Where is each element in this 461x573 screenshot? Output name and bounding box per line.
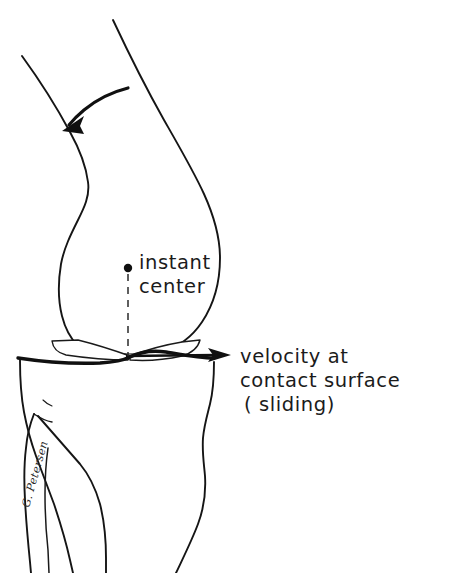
velocity-label-line3: ( sliding): [244, 393, 335, 416]
knee-diagram-figure: instant center velocity at contact surfa…: [0, 0, 461, 573]
knee-diagram-canvas: instant center velocity at contact surfa…: [0, 0, 461, 573]
fibula-shaft-medial: [45, 448, 49, 573]
tibia-lateral-border: [176, 362, 214, 573]
flexion-rotation-arrow-curve: [69, 88, 128, 125]
femur-anterior-shaft-line: [22, 56, 88, 346]
instant-center-label-line1: instant: [139, 251, 211, 274]
instant-center-label-line2: center: [139, 275, 206, 298]
femur-posterior-condyle-outline: [113, 20, 220, 352]
proximal-tibiofibular-detail: [43, 400, 52, 406]
anterior-meniscus: [52, 340, 130, 360]
velocity-label-line1: velocity at: [240, 345, 349, 368]
velocity-label-line2: contact surface: [240, 369, 400, 392]
instant-center-dot: [124, 264, 132, 272]
velocity-vector-shaft: [126, 355, 216, 356]
